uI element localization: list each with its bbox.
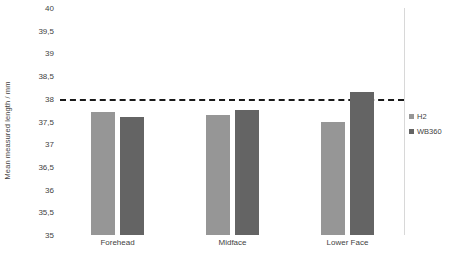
- y-axis-tick-label: 35,5: [38, 208, 54, 217]
- chart-legend: H2WB360: [409, 112, 449, 142]
- y-axis-tick-label: 37: [45, 140, 54, 149]
- legend-item-h2[interactable]: H2: [409, 112, 449, 121]
- legend-label: H2: [417, 112, 427, 121]
- x-axis-category-label: Forehead: [100, 238, 134, 247]
- y-axis-tick-label: 37,5: [38, 117, 54, 126]
- y-axis-tick-labels: 4039,53938,53837,53736,53635,535: [16, 0, 60, 261]
- y-axis-tick-label: 38,5: [38, 72, 54, 81]
- y-axis-tick-label: 39: [45, 49, 54, 58]
- legend-item-wb360[interactable]: WB360: [409, 127, 449, 136]
- bar-wb360[interactable]: [120, 117, 144, 235]
- bar-chart: Mean measured length / mm 4039,53938,538…: [0, 0, 450, 261]
- bar-h2[interactable]: [321, 122, 345, 236]
- y-axis-tick-label: 36,5: [38, 162, 54, 171]
- x-axis-category-label: Lower Face: [327, 238, 369, 247]
- bar-wb360[interactable]: [235, 110, 259, 235]
- bar-wb360[interactable]: [350, 92, 374, 235]
- y-axis-tick-label: 35: [45, 231, 54, 240]
- bar-h2[interactable]: [91, 112, 115, 235]
- x-axis-category-label: Midface: [218, 238, 246, 247]
- bar-group: [175, 8, 290, 235]
- bar-h2[interactable]: [206, 115, 230, 235]
- bar-group: [290, 8, 405, 235]
- legend-swatch-icon: [409, 114, 414, 119]
- y-axis-tick-label: 38: [45, 94, 54, 103]
- y-axis-title-text: Mean measured length / mm: [4, 82, 13, 180]
- y-axis-title: Mean measured length / mm: [0, 0, 16, 261]
- x-axis-category-labels: ForeheadMidfaceLower Face: [60, 238, 405, 254]
- bar-group: [60, 8, 175, 235]
- legend-label: WB360: [417, 127, 442, 136]
- plot-area: [60, 8, 405, 235]
- y-axis-tick-label: 40: [45, 4, 54, 13]
- y-axis-tick-label: 39,5: [38, 26, 54, 35]
- legend-swatch-icon: [409, 129, 414, 134]
- y-axis-tick-label: 36: [45, 185, 54, 194]
